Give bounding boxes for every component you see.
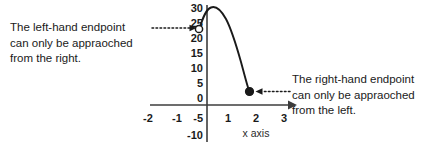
- x-axis-arrow-icon: [288, 101, 297, 110]
- y-tick-10: 10: [191, 62, 203, 74]
- y-tick-minus-10: -10: [187, 129, 203, 141]
- y-tick-20: 20: [191, 32, 203, 44]
- x-tick-3: 3: [281, 112, 287, 124]
- figure-canvas: The left-hand endpoint can only be appra…: [0, 0, 448, 148]
- x-tick-1: 1: [225, 112, 231, 124]
- left-endpoint-open-circle: [195, 25, 202, 32]
- y-tick-30: 30: [191, 2, 203, 14]
- right-leader-arrow-icon: [256, 88, 263, 94]
- y-tick-0: 0: [197, 92, 203, 104]
- y-tick-minus-5: -5: [193, 112, 203, 124]
- x-tick-minus-2: -2: [143, 112, 153, 124]
- y-tick-5: 5: [197, 77, 203, 89]
- x-tick-minus-1: -1: [172, 112, 182, 124]
- y-tick-15: 15: [191, 47, 203, 59]
- x-axis-label: x axis: [243, 127, 270, 139]
- x-tick-2: 2: [253, 112, 259, 124]
- function-plot: 30 25 20 15 10 5 0 -5 -10 -2 -1 1 2 3 x …: [0, 0, 448, 148]
- right-endpoint-closed-circle: [246, 88, 254, 96]
